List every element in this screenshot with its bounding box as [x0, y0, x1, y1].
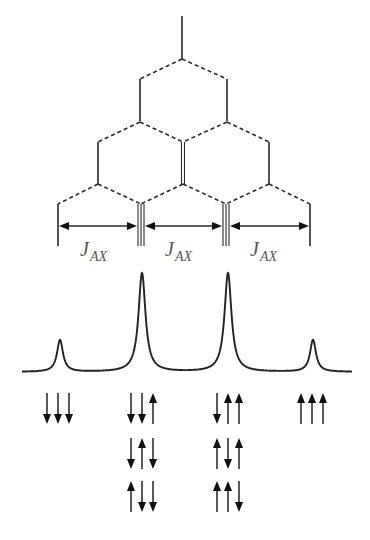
coupling-constant-label: JAX [250, 238, 277, 264]
tree-branch-dashed [226, 184, 269, 204]
spin-down-arrow-icon [138, 481, 146, 512]
spin-down-arrow-icon [149, 481, 157, 512]
spin-down-arrow-icon [54, 393, 62, 424]
spin-down-arrow-icon [127, 438, 135, 469]
spin-up-arrow-icon [308, 393, 316, 424]
spin-up-arrow-icon [213, 481, 221, 512]
arrowhead-left-icon [230, 222, 240, 230]
spin-up-arrow-icon [149, 393, 157, 424]
arrowhead-right-icon [127, 222, 137, 230]
splitting-diagram: JAXJAXJAX [0, 0, 370, 540]
spin-down-arrow-icon [235, 481, 243, 512]
tree-branch-dashed [140, 122, 183, 142]
tree-branch-dashed [140, 59, 182, 79]
spin-down-arrow-icon [65, 393, 73, 424]
arrowhead-right-icon [212, 222, 222, 230]
spin-up-arrow-icon [235, 438, 243, 469]
arrowhead-right-icon [299, 222, 309, 230]
coupling-constant-markers: JAXJAXJAX [59, 222, 309, 264]
arrowhead-left-icon [145, 222, 155, 230]
tree-branch-dashed [182, 59, 227, 79]
tree-branch-dashed [141, 184, 183, 204]
nmr-spectrum-quartet [22, 273, 352, 372]
spin-up-arrow-icon [319, 393, 327, 424]
splitting-tree [58, 16, 310, 246]
tree-branch-dashed [269, 184, 310, 204]
tree-branch-dashed [183, 184, 226, 204]
spin-down-arrow-icon [138, 393, 146, 424]
tree-branch-dashed [98, 184, 141, 204]
spin-down-arrow-icon [127, 393, 135, 424]
spin-up-arrow-icon [213, 438, 221, 469]
spin-up-arrow-icon [235, 393, 243, 424]
spectrum-trace [22, 273, 352, 372]
tree-branch-dashed [227, 122, 269, 142]
spin-down-arrow-icon [149, 438, 157, 469]
spin-up-arrow-icon [224, 393, 232, 424]
tree-branch-dashed [183, 122, 227, 142]
spin-down-arrow-icon [213, 393, 221, 424]
spin-up-arrow-icon [138, 438, 146, 469]
spin-up-arrow-icon [224, 481, 232, 512]
spin-up-arrow-icon [127, 481, 135, 512]
arrowhead-left-icon [59, 222, 69, 230]
tree-branch-dashed [58, 184, 98, 204]
spin-up-arrow-icon [297, 393, 305, 424]
coupling-constant-label: JAX [80, 238, 107, 264]
spin-down-arrow-icon [43, 393, 51, 424]
spin-down-arrow-icon [224, 438, 232, 469]
coupling-constant-label: JAX [165, 238, 192, 264]
spin-state-arrows [43, 393, 327, 512]
tree-branch-dashed [98, 122, 140, 142]
